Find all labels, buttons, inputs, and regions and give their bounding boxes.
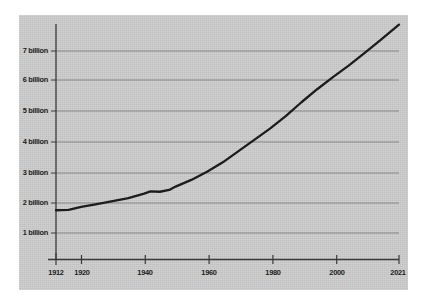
population-line bbox=[56, 25, 399, 211]
y-axis-label-6b: 6 billion bbox=[4, 75, 48, 84]
x-axis-label-1980: 1980 bbox=[254, 268, 291, 277]
x-axis-label-2021: 2021 bbox=[380, 268, 417, 277]
line-chart bbox=[0, 0, 427, 304]
y-axis-label-5b: 5 billion bbox=[4, 106, 48, 115]
y-axis-label-1b: 1 billion bbox=[4, 228, 48, 237]
y-axis-label-2b: 2 billion bbox=[4, 198, 48, 207]
x-axis-label-1960: 1960 bbox=[191, 268, 228, 277]
x-axis-label-2000: 2000 bbox=[318, 268, 355, 277]
x-axis-label-1940: 1940 bbox=[127, 268, 164, 277]
gridlines bbox=[56, 51, 399, 233]
y-axis-label-7b: 7 billion bbox=[4, 46, 48, 55]
y-axis-ticks bbox=[51, 51, 56, 233]
chart-screenshot: 7 billion 6 billion 5 billion 4 billion … bbox=[0, 0, 427, 304]
x-axis-label-1920: 1920 bbox=[63, 268, 100, 277]
y-axis-label-4b: 4 billion bbox=[4, 137, 48, 146]
y-axis-label-3b: 3 billion bbox=[4, 168, 48, 177]
